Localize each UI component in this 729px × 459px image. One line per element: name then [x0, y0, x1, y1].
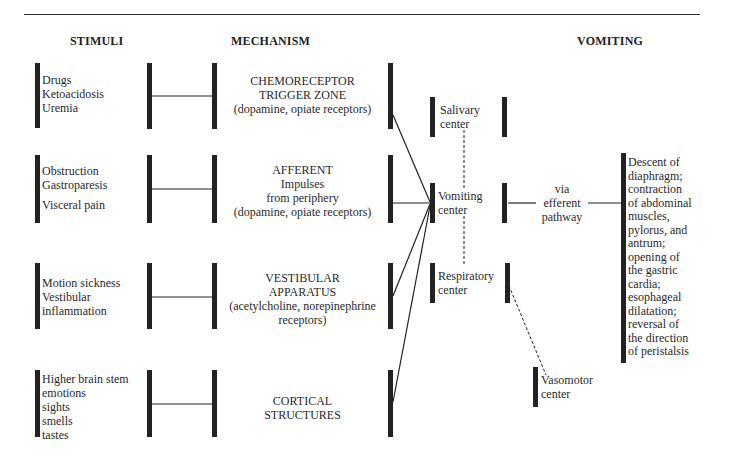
stimulus-inflammation: inflammation [42, 304, 120, 318]
mechanism-title: TRIGGER ZONE [220, 88, 385, 102]
stimulus-sights: sights [42, 400, 129, 414]
outcome-line: esophageal [628, 291, 692, 305]
stimuli-bar-1 [35, 63, 40, 128]
link-bar-right-2 [212, 155, 217, 223]
vomiting-outcome-text: Descent of diaphragm; contraction of abd… [628, 156, 692, 359]
respiratory-center-label: Respiratory center [438, 269, 494, 297]
mechanism-vestibular: VESTIBULAR APPARATUS (acetylcholine, nor… [220, 271, 385, 327]
stimuli-group-3: Motion sickness Vestibular inflammation [42, 276, 120, 318]
stimuli-group-4: Higher brain stem emotions sights smells… [42, 372, 129, 442]
mechanism-receptors: (acetylcholine, norepinephrine [220, 299, 385, 313]
center-label-line: Salivary [440, 103, 480, 117]
mechanism-subtitle: Impulses [220, 177, 385, 191]
stimulus-gastroparesis: Gastroparesis [42, 178, 107, 192]
outcome-line: the direction [628, 332, 692, 346]
mechanism-bar-4 [388, 370, 393, 437]
vomiting-center-bar-right [502, 183, 507, 223]
center-label-line: Vasomotor [541, 373, 593, 387]
stimulus-smells: smells [42, 414, 129, 428]
stimulus-vestibular: Vestibular [42, 290, 120, 304]
outcome-line: reversal of [628, 318, 692, 332]
stimulus-ketoacidosis: Ketoacidosis [42, 87, 104, 101]
outcome-line: pylorus, and [628, 224, 692, 238]
stimuli-group-1: Drugs Ketoacidosis Uremia [42, 73, 104, 115]
outcome-line: contraction [628, 183, 692, 197]
link-bar-right-4 [212, 370, 217, 437]
outcome-line: of peristalsis [628, 345, 692, 359]
link-bar-left-3 [147, 263, 152, 329]
mechanism-receptors: (dopamine, opiate receptors) [220, 205, 385, 219]
mechanism-receptors: receptors) [220, 313, 385, 327]
outcome-line: diaphragm; [628, 170, 692, 184]
link-bar-right-1 [212, 63, 217, 129]
outcome-line: of abdominal [628, 197, 692, 211]
salivary-bar [430, 97, 435, 137]
efferent-line: efferent [536, 196, 588, 210]
mechanism-subtitle: from periphery [220, 191, 385, 205]
stimulus-drugs: Drugs [42, 73, 104, 87]
vasomotor-center-label: Vasomotor center [541, 373, 593, 401]
stimuli-group-2: Obstruction Gastroparesis Visceral pain [42, 164, 107, 212]
outcome-line: Descent of [628, 156, 692, 170]
stimulus-emotions: emotions [42, 386, 129, 400]
center-label-line: Respiratory [438, 269, 494, 283]
efferent-line: pathway [536, 210, 588, 224]
outcome-line: muscles, [628, 210, 692, 224]
efferent-line: via [536, 182, 588, 196]
mechanism-title: STRUCTURES [220, 408, 385, 422]
center-label-line: center [440, 117, 480, 131]
stimulus-tastes: tastes [42, 428, 129, 442]
center-label-line: Vomiting [438, 189, 482, 203]
outcome-bar [621, 153, 626, 363]
mechanism-title: APPARATUS [220, 285, 385, 299]
center-label-line: center [438, 203, 482, 217]
link-bar-right-3 [212, 263, 217, 329]
outcome-line: the gastric [628, 264, 692, 278]
stimuli-bar-4 [35, 370, 40, 437]
vasomotor-bar [533, 367, 538, 407]
mechanism-bar-2 [388, 155, 393, 223]
stimuli-bar-2 [35, 155, 40, 223]
mechanism-title: VESTIBULAR [220, 271, 385, 285]
mechanism-title: AFFERENT [220, 163, 385, 177]
salivary-bar-right [502, 97, 507, 137]
link-bar-left-4 [147, 370, 152, 437]
vomiting-center-bar [430, 183, 435, 223]
salivary-center-label: Salivary center [440, 103, 480, 131]
respiratory-bar [430, 263, 435, 303]
mechanism-title: CHEMORECEPTOR [220, 74, 385, 88]
center-label-line: center [438, 283, 494, 297]
outcome-line: cardia; [628, 278, 692, 292]
outcome-line: antrum; [628, 237, 692, 251]
center-label-line: center [541, 387, 593, 401]
mechanism-cortical: CORTICAL STRUCTURES [220, 394, 385, 422]
stimulus-uremia: Uremia [42, 101, 104, 115]
stimulus-obstruction: Obstruction [42, 164, 107, 178]
stimulus-motion-sickness: Motion sickness [42, 276, 120, 290]
outcome-line: opening of [628, 251, 692, 265]
stimuli-bar-3 [35, 263, 40, 329]
vomiting-center-label: Vomiting center [438, 189, 482, 217]
efferent-pathway-label: via efferent pathway [536, 182, 588, 224]
mechanism-title: CORTICAL [220, 394, 385, 408]
mechanism-bar-3 [388, 263, 393, 329]
mechanism-afferent: AFFERENT Impulses from periphery (dopami… [220, 163, 385, 219]
outcome-line: dilatation; [628, 305, 692, 319]
stimulus-higher-brain-stem: Higher brain stem [42, 372, 129, 386]
respiratory-bar-right [505, 263, 510, 303]
link-bar-left-1 [147, 63, 152, 129]
stimulus-visceral-pain: Visceral pain [42, 198, 107, 212]
link-bar-left-2 [147, 155, 152, 223]
mechanism-ctz: CHEMORECEPTOR TRIGGER ZONE (dopamine, op… [220, 74, 385, 116]
mechanism-receptors: (dopamine, opiate receptors) [220, 102, 385, 116]
mechanism-bar-1 [388, 63, 393, 129]
